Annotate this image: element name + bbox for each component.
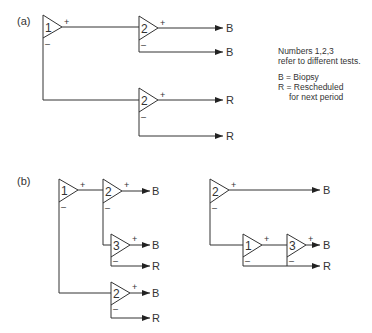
panel-a-test2-top-node: 2 + – bbox=[139, 16, 165, 50]
plus-sign: + bbox=[160, 18, 165, 28]
plus-sign: + bbox=[308, 234, 313, 244]
test-number: 2 bbox=[212, 185, 219, 199]
legend: Numbers 1,2,3 refer to different tests. … bbox=[278, 46, 361, 102]
test-number: 1 bbox=[61, 184, 68, 198]
minus-sign: – bbox=[212, 203, 217, 213]
outcome-biopsy: B bbox=[323, 184, 330, 196]
panel-b-label: (b) bbox=[17, 175, 30, 187]
test-number: 2 bbox=[141, 22, 148, 36]
legend-line: Numbers 1,2,3 bbox=[278, 46, 361, 56]
test-number: 3 bbox=[289, 239, 296, 253]
plus-sign: + bbox=[64, 17, 69, 27]
test-number: 2 bbox=[141, 94, 148, 108]
arrow-icon bbox=[243, 257, 320, 266]
minus-sign: – bbox=[45, 39, 50, 49]
panel-a-label: (a) bbox=[17, 15, 30, 27]
test-number: 1 bbox=[245, 239, 252, 253]
outcome-biopsy: B bbox=[152, 239, 159, 251]
panel-b-right-test3-node: 3 + – bbox=[287, 234, 313, 266]
panel-b-left-test2-bottom-node: 2 + – bbox=[111, 282, 137, 314]
test-number: 1 bbox=[45, 21, 52, 35]
minus-sign: – bbox=[113, 304, 118, 314]
decision-tree-figure: (a) 1 + – 2 + – B B 2 + – R bbox=[0, 0, 372, 333]
minus-sign: – bbox=[105, 203, 110, 213]
outcome-rescheduled: R bbox=[226, 94, 234, 106]
panel-b-left-test2-node: 2 + – bbox=[103, 179, 129, 213]
panel-b-right-test2-node: 2 + – bbox=[210, 179, 236, 213]
panel-a-test1-node: 1 + – bbox=[43, 15, 69, 49]
panel-b-right-test1-node: 1 + – bbox=[243, 234, 269, 266]
panel-b-left-test1-node: 1 + – bbox=[59, 179, 85, 212]
minus-sign: – bbox=[113, 256, 118, 266]
plus-sign: + bbox=[160, 90, 165, 100]
test-number: 3 bbox=[113, 239, 120, 253]
panel-a-test2-bottom-node: 2 + – bbox=[139, 88, 165, 122]
test-number: 2 bbox=[113, 287, 120, 301]
minus-sign: – bbox=[245, 256, 250, 266]
plus-sign: + bbox=[132, 282, 137, 292]
minus-sign: – bbox=[289, 256, 294, 266]
wire-a-1-minus bbox=[43, 38, 139, 100]
plus-sign: + bbox=[132, 234, 137, 244]
minus-sign: – bbox=[61, 202, 66, 212]
outcome-biopsy: B bbox=[226, 46, 233, 58]
outcome-rescheduled: R bbox=[226, 130, 234, 142]
outcome-rescheduled: R bbox=[152, 312, 160, 324]
outcome-biopsy: B bbox=[152, 287, 159, 299]
outcome-rescheduled: R bbox=[323, 260, 331, 272]
outcome-biopsy: B bbox=[226, 22, 233, 34]
plus-sign: + bbox=[264, 234, 269, 244]
outcome-biopsy: B bbox=[152, 185, 159, 197]
plus-sign: + bbox=[124, 180, 129, 190]
test-number: 2 bbox=[105, 185, 112, 199]
minus-sign: – bbox=[141, 112, 146, 122]
outcome-rescheduled: R bbox=[152, 260, 160, 272]
outcome-biopsy: B bbox=[323, 239, 330, 251]
plus-sign: + bbox=[231, 180, 236, 190]
minus-sign: – bbox=[141, 40, 146, 50]
legend-rescheduled: R = Rescheduled bbox=[278, 82, 361, 92]
arrow-icon bbox=[139, 112, 223, 136]
legend-rescheduled-cont: for next period bbox=[278, 92, 361, 102]
panel-b-left-test3-node: 3 + – bbox=[111, 234, 137, 266]
plus-sign: + bbox=[80, 180, 85, 190]
legend-biopsy: B = Biopsy bbox=[278, 72, 361, 82]
legend-line: refer to different tests. bbox=[278, 56, 361, 66]
arrow-icon bbox=[139, 40, 223, 52]
